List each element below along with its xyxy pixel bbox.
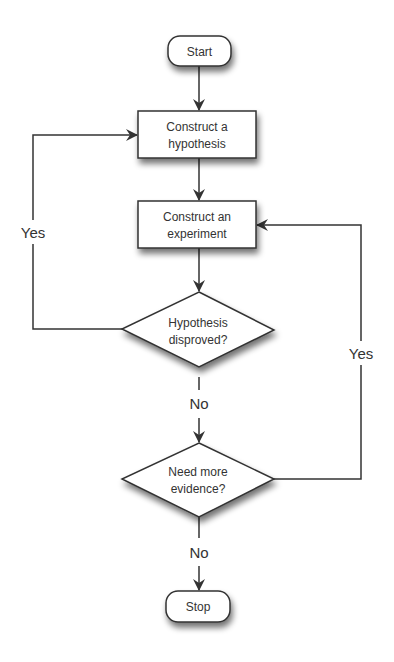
node-hypothesis-line2: hypothesis	[168, 137, 225, 151]
edge-evidence-yes-to-experiment	[257, 225, 361, 479]
edge-label-no-1: No	[189, 395, 208, 412]
edge-label-no-2: No	[189, 544, 208, 561]
node-need-more-evidence: Need more evidence?	[122, 443, 274, 517]
edge-label-yes-left: Yes	[21, 224, 45, 241]
node-construct-experiment: Construct an experiment	[138, 201, 256, 248]
node-experiment-line1: Construct an	[163, 210, 231, 224]
node-hypothesis-line1: Construct a	[166, 120, 228, 134]
node-disproved-line2: disproved?	[169, 333, 228, 347]
node-start: Start	[168, 36, 231, 66]
edge-label-yes-right: Yes	[349, 345, 373, 362]
flowchart-canvas: Yes Yes No No Start Construct a hypothes…	[0, 0, 394, 662]
node-experiment-line2: experiment	[167, 227, 227, 241]
node-start-label: Start	[187, 45, 213, 59]
node-evidence-line2: evidence?	[171, 482, 226, 496]
node-hypothesis-disproved: Hypothesis disproved?	[122, 292, 274, 367]
node-stop-label: Stop	[186, 600, 211, 614]
edge-disproved-yes-to-hypothesis	[33, 135, 137, 329]
node-construct-hypothesis: Construct a hypothesis	[138, 111, 256, 158]
node-disproved-line1: Hypothesis	[168, 316, 227, 330]
node-stop: Stop	[166, 591, 230, 622]
node-evidence-line1: Need more	[168, 465, 228, 479]
